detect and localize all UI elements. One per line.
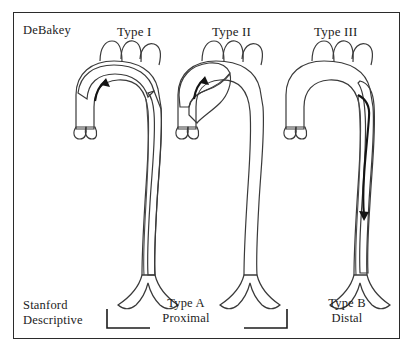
type-1-dissection-arrow: [95, 78, 110, 101]
stanford-row-label-line1: Stanford: [23, 298, 83, 313]
type-1-false-lumen-arch: [78, 65, 154, 99]
stanford-type-b-label: Type B Distal: [309, 296, 385, 326]
debakey-row-label: DeBakey: [23, 23, 71, 38]
type-1-false-lumen-descending: [148, 91, 162, 275]
stanford-row-label: Stanford Descriptive: [23, 298, 83, 327]
type-2-false-lumen-lower: [189, 74, 231, 123]
stanford-type-b-line2: Distal: [309, 311, 385, 326]
type-2-aorta-illustration: [164, 37, 284, 322]
stanford-row-label-line2: Descriptive: [23, 313, 83, 328]
iliac-bifurcation: [220, 275, 280, 309]
figure-frame: DeBakey Type I Type II Type III: [13, 12, 400, 339]
type-2-aorta-body: [178, 61, 264, 275]
type-3-aorta-illustration: [272, 37, 397, 322]
stanford-type-a-bracket: [106, 309, 288, 331]
stanford-type-b-line1: Type B: [309, 296, 385, 311]
aortic-dissection-classification-figure: DeBakey Type I Type II Type III: [0, 0, 420, 351]
